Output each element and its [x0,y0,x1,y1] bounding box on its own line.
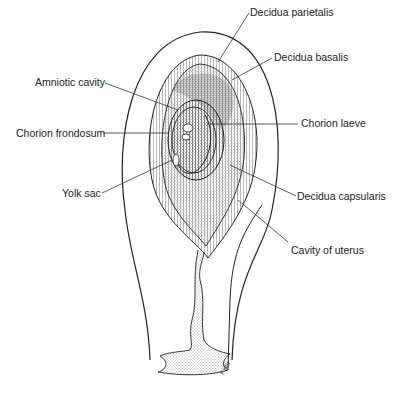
label-decidua-capsularis: Decidua capsularis [297,190,386,202]
label-amniotic-cavity: Amniotic cavity [35,76,105,88]
yolk-sac-shape [173,154,179,166]
label-chorion-frondosum: Chorion frondosum [16,127,105,139]
embryo-body [182,134,190,140]
label-yolk-sac: Yolk sac [62,187,101,199]
label-cavity-of-uterus: Cavity of uterus [291,244,364,256]
label-decidua-parietalis: Decidua parietalis [250,6,333,18]
embryo [183,124,193,132]
label-decidua-basalis: Decidua basalis [274,51,348,63]
label-chorion-laeve: Chorion laeve [301,117,366,129]
leader-decidua-parietalis [218,13,249,62]
leader-cavity-of-uterus [238,200,288,242]
cervical-canal [158,250,230,375]
